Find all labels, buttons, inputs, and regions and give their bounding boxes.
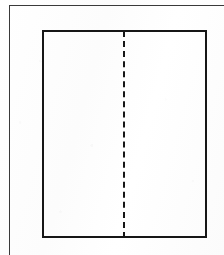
figure-canvas <box>0 0 224 255</box>
page-border-top-rule <box>9 5 224 6</box>
center-axis-label <box>0 0 1 1</box>
figure-title <box>0 0 1 1</box>
page-border-left-rule <box>9 5 10 255</box>
rectangle-label <box>0 0 1 1</box>
outer-frame-label <box>0 0 1 1</box>
vertical-dashed-centerline <box>123 31 125 238</box>
